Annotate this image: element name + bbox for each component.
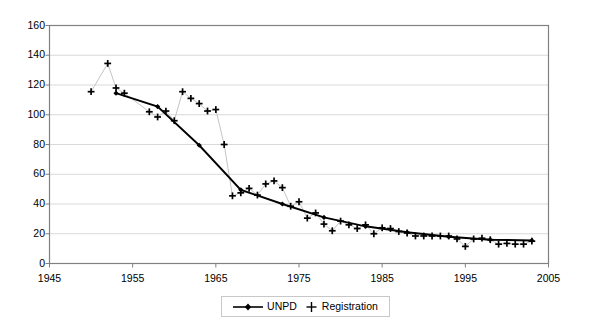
- y-tick-label: 60: [14, 168, 45, 179]
- x-tick-label: 1985: [358, 273, 406, 284]
- registration-markers: [88, 60, 536, 250]
- y-tick-label: 0: [14, 258, 45, 269]
- y-tick-label: 160: [14, 20, 45, 31]
- unpd-data-point: [280, 201, 285, 206]
- x-tick-label: 2005: [525, 273, 573, 284]
- unpd-data-point: [446, 234, 451, 239]
- registration-data-point: [88, 88, 95, 95]
- registration-data-point: [304, 215, 311, 222]
- registration-data-point: [504, 240, 511, 247]
- legend-label-registration: Registration: [322, 301, 378, 312]
- x-tick-label: 1975: [275, 273, 323, 284]
- registration-data-point: [146, 108, 153, 115]
- y-tick-label: 80: [14, 139, 45, 150]
- y-tick-label: 100: [14, 109, 45, 120]
- registration-data-point: [520, 241, 527, 248]
- x-tick-label: 1995: [441, 273, 489, 284]
- unpd-data-point: [488, 237, 493, 242]
- y-tick-label: 40: [14, 198, 45, 209]
- unpd-data-point: [321, 215, 326, 220]
- chart-legend: UNPD Registration: [221, 296, 390, 317]
- legend-item-unpd: UNPD: [233, 301, 297, 312]
- registration-data-point: [379, 224, 386, 231]
- registration-data-point: [262, 181, 269, 188]
- x-tick-label: 1965: [192, 273, 240, 284]
- registration-data-point: [212, 106, 219, 113]
- registration-data-point: [354, 225, 361, 232]
- y-tick-label: 120: [14, 79, 45, 90]
- chart-container: 160140120100806040200 194519551965197519…: [0, 0, 607, 331]
- registration-data-point: [113, 85, 120, 92]
- registration-data-point: [221, 141, 228, 148]
- unpd-legend-swatch-icon: [233, 302, 263, 312]
- registration-data-point: [104, 60, 111, 67]
- y-tick-label: 140: [14, 49, 45, 60]
- registration-data-point: [512, 241, 519, 248]
- registration-data-point: [229, 192, 236, 199]
- plot-frame: [46, 26, 549, 268]
- registration-legend-swatch-icon: [305, 301, 318, 313]
- x-tick-label: 1945: [26, 273, 74, 284]
- registration-data-point: [479, 235, 486, 242]
- legend-label-unpd: UNPD: [267, 301, 297, 312]
- registration-series-line: [91, 63, 532, 246]
- legend-item-registration: Registration: [305, 301, 378, 313]
- y-tick-label: 20: [14, 228, 45, 239]
- registration-connector-lines: [91, 63, 532, 246]
- x-tick-label: 1955: [109, 273, 157, 284]
- unpd-data-point: [113, 91, 118, 96]
- registration-data-point: [495, 241, 502, 248]
